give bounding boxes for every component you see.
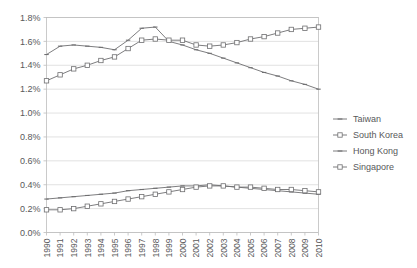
x-axis-tick-label: 1991 — [55, 238, 65, 257]
data-point-marker — [235, 185, 239, 189]
x-axis-tick-label: 1999 — [164, 238, 174, 257]
y-axis-tick-label: 0.4% — [20, 180, 41, 190]
legend-item-singapore[interactable]: Singapore — [333, 162, 394, 172]
data-point-marker — [153, 192, 157, 196]
data-point-marker — [180, 187, 184, 191]
legend-item-label: Taiwan — [353, 114, 381, 124]
legend-item-label: Hong Kong — [353, 146, 398, 156]
series-singapore — [44, 184, 320, 212]
x-axis-labels: 1990199119921993199419951996199719981999… — [42, 238, 324, 257]
line-chart: 0.0%0.2%0.4%0.6%0.8%1.0%1.2%1.4%1.6%1.8%… — [0, 0, 417, 268]
data-point-marker — [248, 185, 252, 189]
legend-item-hong-kong[interactable]: Hong Kong — [333, 146, 398, 156]
x-axis-tick-label: 2008 — [287, 238, 297, 257]
data-point-marker — [235, 40, 239, 44]
x-axis-tick-label: 2004 — [232, 238, 242, 257]
y-axis-tick-label: 0.0% — [20, 228, 41, 238]
data-point-marker — [126, 46, 130, 50]
data-point-marker — [85, 63, 89, 67]
x-axis-tick-label: 1997 — [137, 238, 147, 257]
y-axis-tick-label: 1.8% — [20, 13, 41, 23]
y-axis-labels: 0.0%0.2%0.4%0.6%0.8%1.0%1.2%1.4%1.6%1.8% — [20, 13, 41, 238]
y-axis-tick-label: 1.2% — [20, 84, 41, 94]
data-point-marker — [303, 26, 307, 30]
data-point-marker — [221, 184, 225, 188]
data-point-marker — [167, 38, 171, 42]
x-axis-tick-label: 1995 — [110, 238, 120, 257]
data-point-marker — [194, 43, 198, 47]
x-axis-tick-label: 2007 — [273, 238, 283, 257]
x-axis-tick-label: 2000 — [178, 238, 188, 257]
series-line-path — [47, 27, 319, 89]
data-point-marker — [262, 186, 266, 190]
data-point-marker — [72, 67, 76, 71]
data-point-marker — [140, 194, 144, 198]
data-point-marker — [262, 34, 266, 38]
x-axis-tick-label: 2002 — [205, 238, 215, 257]
data-point-marker — [316, 190, 320, 194]
data-point-marker — [194, 185, 198, 189]
data-point-marker — [44, 208, 48, 212]
legend-swatch-marker — [338, 165, 342, 169]
data-point-marker — [153, 37, 157, 41]
chart-legend: TaiwanSouth KoreaHong KongSingapore — [333, 114, 403, 172]
data-point-marker — [99, 202, 103, 206]
x-axis-tick-label: 2006 — [259, 238, 269, 257]
data-point-marker — [112, 55, 116, 59]
data-point-marker — [99, 58, 103, 62]
x-axis-tick-label: 1992 — [69, 238, 79, 257]
y-axis-tick-label: 1.6% — [20, 37, 41, 47]
grid-lines — [47, 18, 319, 233]
x-axis-tick-label: 1998 — [151, 238, 161, 257]
legend-item-taiwan[interactable]: Taiwan — [333, 114, 381, 124]
data-point-marker — [167, 190, 171, 194]
y-axis-tick-label: 0.2% — [20, 204, 41, 214]
x-axis-tick-label: 1996 — [123, 238, 133, 257]
plot-frame — [44, 18, 319, 236]
series-taiwan — [44, 27, 320, 89]
data-point-marker — [289, 187, 293, 191]
data-point-marker — [289, 27, 293, 31]
data-point-marker — [276, 31, 280, 35]
x-axis-tick-label: 2010 — [314, 238, 324, 257]
data-series — [44, 25, 320, 212]
data-point-marker — [85, 204, 89, 208]
data-point-marker — [276, 187, 280, 191]
data-point-marker — [221, 43, 225, 47]
data-point-marker — [58, 208, 62, 212]
legend-item-south-korea[interactable]: South Korea — [333, 130, 403, 140]
series-south-korea — [44, 25, 320, 83]
data-point-marker — [112, 199, 116, 203]
data-point-marker — [72, 206, 76, 210]
legend-swatch-marker — [338, 133, 342, 137]
data-point-marker — [208, 184, 212, 188]
y-axis-tick-label: 1.0% — [20, 108, 41, 118]
data-point-marker — [208, 44, 212, 48]
x-axis-tick-label: 1993 — [83, 238, 93, 257]
legend-item-label: Singapore — [353, 162, 394, 172]
data-point-marker — [248, 37, 252, 41]
y-axis-tick-label: 1.4% — [20, 60, 41, 70]
x-axis-tick-label: 2003 — [219, 238, 229, 257]
data-point-marker — [44, 79, 48, 83]
y-axis-tick-label: 0.8% — [20, 132, 41, 142]
x-axis-tick-label: 1990 — [42, 238, 52, 257]
x-axis-tick-label: 2001 — [191, 238, 201, 257]
data-point-marker — [180, 38, 184, 42]
data-point-marker — [126, 197, 130, 201]
x-axis-tick-label: 1994 — [96, 238, 106, 257]
plot-border — [47, 18, 319, 233]
y-axis-tick-label: 0.6% — [20, 156, 41, 166]
x-axis-tick-label: 2009 — [300, 238, 310, 257]
data-point-marker — [140, 38, 144, 42]
chart-canvas: 0.0%0.2%0.4%0.6%0.8%1.0%1.2%1.4%1.6%1.8%… — [0, 0, 417, 268]
x-axis-tick-label: 2005 — [246, 238, 256, 257]
data-point-marker — [58, 73, 62, 77]
legend-item-label: South Korea — [353, 130, 403, 140]
data-point-marker — [316, 25, 320, 29]
data-point-marker — [303, 188, 307, 192]
